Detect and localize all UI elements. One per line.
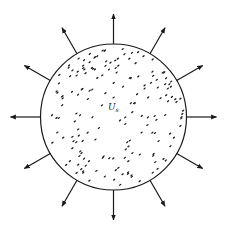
particle-dot [124,148,127,151]
particle-dot [75,112,78,115]
particle-dot [78,155,81,158]
particle-dot [84,164,87,167]
particle-dot [77,57,80,60]
particle-dot [77,134,80,137]
particle-dot [179,97,182,100]
particle-dot [157,140,160,143]
particle-dot [169,85,172,88]
particle-dot [67,66,70,69]
particle-dot [151,171,154,174]
particle-dot [71,147,74,150]
particle-dot [76,93,79,96]
particle-dot [138,153,141,156]
particle-dot [82,157,85,160]
particle-dot [137,51,140,54]
particle-dot [75,74,78,77]
particle-dot [112,96,115,99]
radiating-sphere-diagram: Us [0,0,228,234]
particle-dot [62,136,65,139]
particle-dot [127,145,130,148]
particle-dot [153,132,156,135]
radial-arrow [24,154,50,169]
particle-dot [77,163,80,166]
center-label: Us [108,102,119,113]
particle-dot [169,145,172,148]
particle-dot [147,96,150,99]
particle-dot [121,173,124,176]
radial-arrows [11,14,217,220]
particle-dot [107,68,110,71]
particle-dot [166,100,169,103]
particle-dot [55,116,58,119]
particle-dot [94,138,97,141]
particle-dot [72,140,75,143]
particle-dot [84,72,87,75]
particle-dot [57,117,60,120]
particle-dot [151,58,154,61]
particle-dot [117,64,120,67]
particle-dot [117,166,120,169]
radial-arrow [62,180,77,206]
particle-dot [131,111,134,114]
particle-dot [121,85,124,88]
particle-dot [138,180,141,183]
particle-dot [154,161,157,164]
particle-dot [143,87,146,90]
particle-dot [104,92,107,95]
particle-dot [164,83,167,86]
particle-dot [134,62,137,65]
particle-dot [153,115,156,118]
particle-dot [82,64,85,67]
particle-dot [129,102,132,105]
radial-arrow [177,66,203,81]
particle-dot [123,156,126,159]
particle-dot [128,57,131,60]
radial-arrow [150,180,165,206]
particle-dot [78,114,81,117]
particle-dot [112,157,115,160]
particle-dot [71,135,74,138]
particle-dot [91,116,94,119]
particle-dot [118,119,121,122]
particle-dot [51,141,54,144]
particle-dot [155,78,158,81]
particle-dot [124,123,127,126]
particle-dot [109,61,112,64]
particle-dot [124,116,127,119]
particle-dot [88,52,91,55]
particle-dot [151,131,154,134]
particle-dot [69,75,72,78]
particle-dot [142,55,145,58]
particle-dot [127,160,130,163]
particle-dot [179,124,182,127]
particle-dot [116,57,119,60]
particle-dot [97,127,100,130]
particle-dot [165,77,168,80]
particle-dot [172,136,175,139]
particle-dot [70,90,73,93]
particle-dot [105,60,108,63]
particle-dot [86,98,89,101]
particle-dot [146,116,149,119]
particle-dot [61,104,64,107]
particle-dot [165,94,168,97]
particle-dot [57,82,60,85]
particle-dot [162,157,165,160]
particle-dot [79,150,82,153]
particle-dot [137,75,140,78]
particle-dot [103,175,106,178]
particle-dot [170,80,173,83]
particle-dot [96,76,99,79]
particle-dot [140,114,143,117]
particle-dots [51,48,185,187]
particle-dot [104,64,107,67]
particle-dot [140,131,143,134]
particle-dot [121,48,124,51]
radial-arrow [24,66,50,81]
particle-dot [136,93,139,96]
particle-dot [81,139,84,142]
particle-dot [73,120,76,123]
particle-dot [82,59,85,62]
particle-dot [174,98,177,101]
particle-dot [88,61,91,64]
